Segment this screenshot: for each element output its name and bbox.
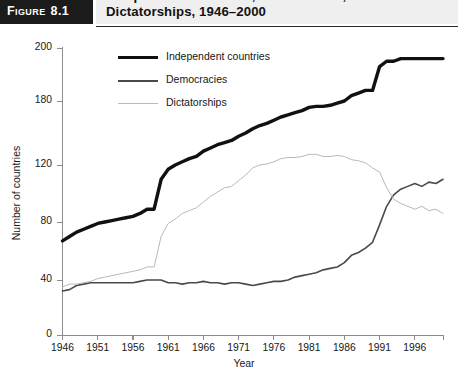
figure-number: 8.1 <box>51 4 70 18</box>
legend-swatch-independent-countries <box>118 56 158 59</box>
figure-title-band: Independent Countries, Democracies, and … <box>96 0 458 24</box>
legend-label-democracies: Democracies <box>166 73 227 85</box>
chart-plot-area: Number of countries Year 04080120180200 … <box>0 27 458 375</box>
series-line-independent-countries <box>63 59 444 241</box>
chart-series-canvas <box>0 27 458 375</box>
figure-word: Figure <box>7 4 46 18</box>
figure-number-label: Figure8.1 <box>7 4 69 18</box>
legend-label-independent-countries: Independent countries <box>166 50 270 62</box>
legend-swatch-democracies <box>118 80 158 82</box>
figure-number-tab: Figure8.1 <box>0 0 93 24</box>
figure-header: Figure8.1 Independent Countries, Democra… <box>0 0 458 27</box>
figure-title: Independent Countries, Democracies, and … <box>106 0 454 19</box>
legend-label-dictatorships: Dictatorships <box>166 96 227 108</box>
legend-swatch-dictatorships <box>118 103 158 104</box>
